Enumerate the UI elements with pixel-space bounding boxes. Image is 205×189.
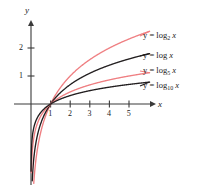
x-axis-title: x bbox=[158, 99, 162, 109]
y-tick-label: 1 bbox=[19, 71, 23, 80]
curve-label-text: y = log bbox=[143, 80, 167, 90]
curve-label-text: y = log bbox=[143, 30, 167, 40]
curve-label-log5: y = log5 x bbox=[143, 66, 176, 75]
x-tick-label: 4 bbox=[107, 109, 111, 118]
curve-label-variable: x bbox=[167, 50, 173, 60]
curve-log10 bbox=[31, 82, 150, 171]
curve-label-variable: x bbox=[170, 30, 176, 40]
curve-label-variable: x bbox=[170, 65, 176, 75]
x-axis-arrowhead bbox=[150, 101, 156, 107]
curve-label-variable: x bbox=[173, 80, 179, 90]
curve-label-log: y = log x bbox=[143, 51, 173, 60]
curve-log5 bbox=[31, 73, 149, 173]
x-tick-label: 5 bbox=[127, 109, 131, 118]
y-tick-label: 2 bbox=[19, 43, 23, 52]
x-tick-label: 3 bbox=[88, 109, 92, 118]
log-functions-chart: y x 12345 12 y = log2 xy = log xy = log5… bbox=[0, 0, 205, 189]
curve-label-base: 10 bbox=[167, 85, 173, 91]
curve-label-base: 5 bbox=[167, 70, 170, 76]
curve-label-log2: y = log2 x bbox=[143, 31, 176, 40]
y-axis-arrowhead bbox=[28, 20, 34, 26]
curve-label-text: y = log bbox=[143, 50, 167, 60]
x-tick-label: 1 bbox=[48, 109, 52, 118]
y-axis-title: y bbox=[25, 5, 29, 15]
chart-canvas bbox=[0, 0, 205, 189]
curve-label-text: y = log bbox=[143, 65, 167, 75]
x-tick-label: 2 bbox=[68, 109, 72, 118]
tick-marks-group bbox=[28, 48, 130, 108]
curve-label-log10: y = log10 x bbox=[143, 81, 179, 90]
curve-label-base: 2 bbox=[167, 35, 170, 41]
